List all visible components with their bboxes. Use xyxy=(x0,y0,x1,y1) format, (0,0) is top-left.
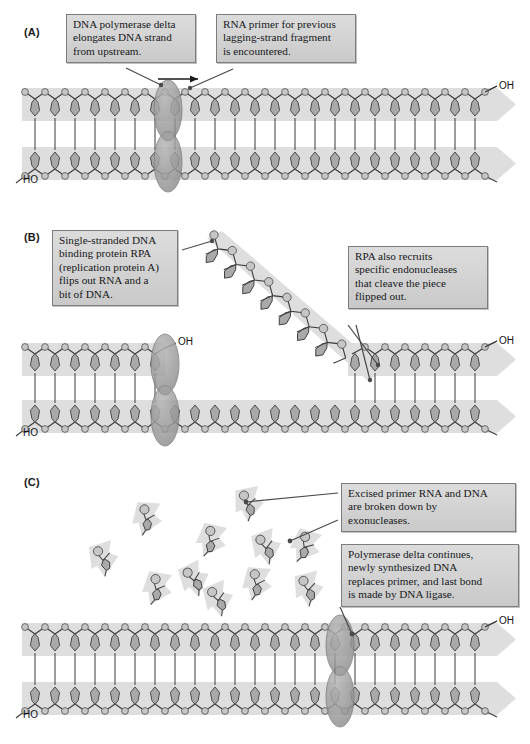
panel-b-label: (B) xyxy=(24,231,40,243)
panel-a-leader-lines xyxy=(126,68,233,88)
rna-primer-callout: RNA primer for previous lagging-strand f… xyxy=(216,14,356,63)
polymerase-delta-callout-line-2: elongates DNA strand xyxy=(73,31,189,44)
rna-primer-callout-line-1: RNA primer for previous xyxy=(223,18,349,31)
panel-c-bottom-strand-ho-label: HO xyxy=(23,709,38,720)
panel-c-leader-lines xyxy=(246,493,352,634)
panel-c-top-strand-oh-label: OH xyxy=(499,615,514,626)
ligase-callout-line-4: is made by DNA ligase. xyxy=(348,588,512,601)
rpa-binding-callout: Single-stranded DNA binding protein RPA … xyxy=(52,230,178,306)
endonuclease-callout-line-2: specific endonucleases xyxy=(355,263,481,276)
panel-c-hydrogen-bonds xyxy=(35,653,475,685)
panel-b-hydrogen-bonds xyxy=(35,373,475,403)
panel-c-dna-polymerase-delta xyxy=(326,615,354,727)
panel-a-label: (A) xyxy=(24,26,40,38)
panel-b-flipped-out-strand xyxy=(194,229,354,372)
panel-b-dna-polymerase-delta xyxy=(151,334,179,446)
panel-c-top-strand xyxy=(22,621,497,651)
polymerase-delta-callout: DNA polymerase delta elongates DNA stran… xyxy=(66,14,196,63)
exonuclease-callout-line-2: are broken down by xyxy=(348,500,509,513)
panel-a-top-strand xyxy=(22,86,497,116)
panel-b-template-strand xyxy=(16,405,497,436)
panel-c-degraded-nucleotide-pool xyxy=(87,486,327,620)
panel-a-bottom-strand-ho-label: HO xyxy=(23,174,38,185)
panel-a-dna-polymerase-delta xyxy=(154,80,182,192)
rpa-binding-callout-line-5: bit of DNA. xyxy=(59,288,171,301)
panel-a-bottom-strand xyxy=(16,152,497,183)
panel-a-strand-ribbons xyxy=(22,88,516,180)
panel-b-top-strand-right-oh-label: OH xyxy=(499,335,514,346)
endonuclease-callout-line-1: RPA also recruits xyxy=(355,250,481,263)
ligase-callout-line-1: Polymerase delta continues, xyxy=(348,548,512,561)
dna-replication-figure: (A) DNA polymerase delta elongates DNA s… xyxy=(0,0,530,744)
ligase-callout-line-2: newly synthesized DNA xyxy=(348,561,512,574)
panel-c-label: (C) xyxy=(24,476,40,488)
panel-b-nascent-strand-oh-label: OH xyxy=(178,336,193,347)
exonuclease-callout: Excised primer RNA and DNA are broken do… xyxy=(341,483,516,532)
ligase-callout: Polymerase delta continues, newly synthe… xyxy=(341,544,519,607)
figure-artwork xyxy=(0,0,530,744)
rpa-binding-callout-line-1: Single-stranded DNA xyxy=(59,234,171,247)
endonuclease-callout-line-3: that cleave the piece xyxy=(355,277,481,290)
panel-c-strand-ribbons xyxy=(22,623,516,715)
exonuclease-callout-line-3: exonucleases. xyxy=(348,514,509,527)
panel-b-top-right-strand xyxy=(350,341,497,371)
panel-b-nascent-strand xyxy=(22,343,176,371)
endonuclease-callout-line-4: flipped out. xyxy=(355,290,481,303)
ligase-callout-line-3: replaces primer, and last bond xyxy=(348,575,512,588)
panel-c-bottom-strand xyxy=(16,687,497,718)
panel-a-top-strand-oh-label: OH xyxy=(499,80,514,91)
panel-a-artwork xyxy=(16,68,516,192)
endonuclease-callout: RPA also recruits specific endonucleases… xyxy=(348,246,488,309)
panel-b-bottom-strand-ho-label: HO xyxy=(23,427,38,438)
panel-a-direction-arrow xyxy=(158,76,198,83)
panel-a-hydrogen-bonds xyxy=(35,118,475,150)
polymerase-delta-callout-line-1: DNA polymerase delta xyxy=(73,18,189,31)
polymerase-delta-callout-line-3: from upstream. xyxy=(73,45,189,58)
rpa-binding-callout-line-2: binding protein RPA xyxy=(59,247,171,260)
rna-primer-callout-line-3: is encountered. xyxy=(223,45,349,58)
rna-primer-callout-line-2: lagging-strand fragment xyxy=(223,31,349,44)
rpa-binding-callout-line-4: flips out RNA and a xyxy=(59,274,171,287)
exonuclease-callout-line-1: Excised primer RNA and DNA xyxy=(348,487,509,500)
rpa-binding-callout-line-3: (replication protein A) xyxy=(59,261,171,274)
